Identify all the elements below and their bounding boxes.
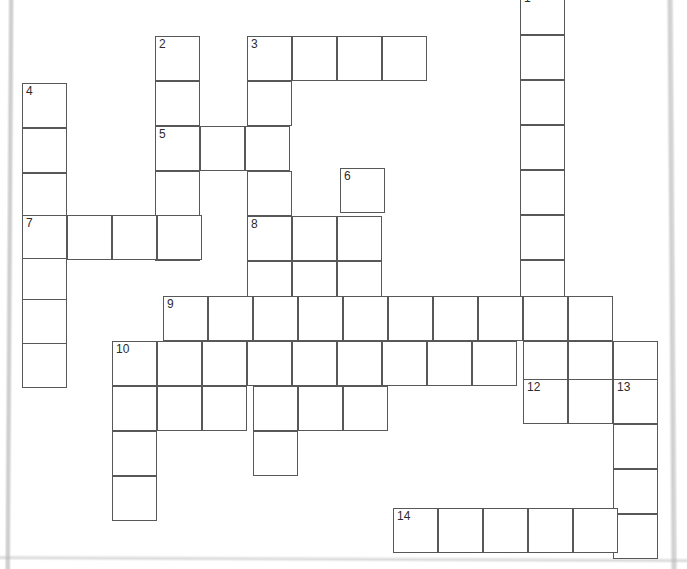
crossword-cell[interactable] [22, 258, 67, 303]
crossword-cell[interactable] [343, 386, 388, 431]
crossword-cell[interactable] [520, 125, 565, 170]
crossword-cell[interactable] [22, 128, 67, 173]
crossword-cell[interactable] [568, 296, 613, 341]
crossword-cell[interactable] [427, 341, 472, 386]
crossword-cell[interactable] [613, 514, 658, 559]
crossword-cell[interactable] [245, 126, 290, 171]
crossword-clue-number: 8 [251, 218, 258, 231]
crossword-cell[interactable] [388, 296, 433, 341]
crossword-cell[interactable] [520, 80, 565, 125]
crossword-cell[interactable] [298, 386, 343, 431]
crossword-cell[interactable]: 1 [520, 0, 565, 35]
crossword-cell[interactable] [202, 341, 247, 386]
crossword-cell[interactable] [155, 81, 200, 126]
crossword-clue-number: 5 [159, 128, 166, 141]
crossword-clue-number: 13 [617, 381, 630, 394]
crossword-cell[interactable] [613, 469, 658, 514]
crossword-cell[interactable] [22, 299, 67, 344]
crossword-cell[interactable] [157, 215, 202, 260]
crossword-cell[interactable] [155, 171, 200, 216]
crossword-cell[interactable] [22, 343, 67, 388]
crossword-clue-number: 2 [159, 38, 166, 51]
crossword-cell[interactable] [382, 36, 427, 81]
crossword-cell[interactable] [483, 508, 528, 553]
crossword-clue-number: 6 [344, 170, 351, 183]
crossword-cell[interactable] [438, 508, 483, 553]
crossword-cell[interactable] [337, 36, 382, 81]
crossword-cell[interactable]: 10 [112, 341, 157, 386]
crossword-cell[interactable] [568, 379, 613, 424]
crossword-clue-number: 9 [167, 298, 174, 311]
crossword-cell[interactable] [247, 341, 292, 386]
crossword-grid[interactable]: 12538476910121314 [0, 0, 687, 569]
crossword-cell[interactable]: 6 [340, 168, 385, 213]
crossword-cell[interactable] [200, 126, 245, 171]
crossword-clue-number: 12 [527, 381, 540, 394]
crossword-clue-number: 1 [524, 0, 531, 5]
crossword-cell[interactable] [520, 35, 565, 80]
crossword-cell[interactable] [292, 36, 337, 81]
crossword-cell[interactable] [337, 341, 382, 386]
crossword-cell[interactable] [112, 386, 157, 431]
crossword-cell[interactable] [22, 173, 67, 218]
crossword-cell[interactable]: 3 [247, 36, 292, 81]
crossword-cell[interactable]: 9 [163, 296, 208, 341]
crossword-cell[interactable] [478, 296, 523, 341]
crossword-cell[interactable] [613, 424, 658, 469]
crossword-cell[interactable] [292, 216, 337, 261]
crossword-cell[interactable] [343, 296, 388, 341]
crossword-clue-number: 14 [397, 510, 410, 523]
crossword-cell[interactable] [253, 386, 298, 431]
crossword-cell[interactable] [247, 81, 292, 126]
crossword-cell[interactable] [382, 341, 427, 386]
crossword-clue-number: 7 [26, 217, 33, 230]
crossword-cell[interactable] [247, 171, 292, 216]
crossword-cell[interactable] [528, 508, 573, 553]
crossword-cell[interactable] [472, 341, 517, 386]
crossword-cell[interactable] [298, 296, 343, 341]
crossword-cell[interactable] [208, 296, 253, 341]
crossword-page: 12538476910121314 [0, 0, 687, 569]
crossword-cell[interactable]: 7 [22, 215, 67, 260]
crossword-cell[interactable] [112, 431, 157, 476]
crossword-cell[interactable]: 2 [155, 36, 200, 81]
crossword-cell[interactable] [337, 216, 382, 261]
crossword-cell[interactable] [523, 296, 568, 341]
crossword-cell[interactable]: 5 [155, 126, 200, 171]
crossword-cell[interactable] [157, 341, 202, 386]
crossword-cell[interactable] [157, 386, 202, 431]
crossword-cell[interactable] [520, 215, 565, 260]
crossword-cell[interactable]: 8 [247, 216, 292, 261]
crossword-cell[interactable]: 12 [523, 379, 568, 424]
crossword-cell[interactable]: 14 [393, 508, 438, 553]
crossword-cell[interactable] [573, 508, 618, 553]
crossword-cell[interactable] [112, 476, 157, 521]
crossword-cell[interactable] [292, 341, 337, 386]
crossword-clue-number: 3 [251, 38, 258, 51]
crossword-cell[interactable] [433, 296, 478, 341]
crossword-clue-number: 10 [116, 343, 129, 356]
crossword-cell[interactable] [253, 296, 298, 341]
crossword-cell[interactable]: 4 [22, 83, 67, 128]
crossword-cell[interactable] [202, 386, 247, 431]
crossword-cell[interactable] [112, 215, 157, 260]
crossword-cell[interactable] [67, 215, 112, 260]
crossword-cell[interactable] [520, 170, 565, 215]
crossword-clue-number: 4 [26, 85, 33, 98]
crossword-cell[interactable]: 13 [613, 379, 658, 424]
crossword-cell[interactable] [253, 431, 298, 476]
